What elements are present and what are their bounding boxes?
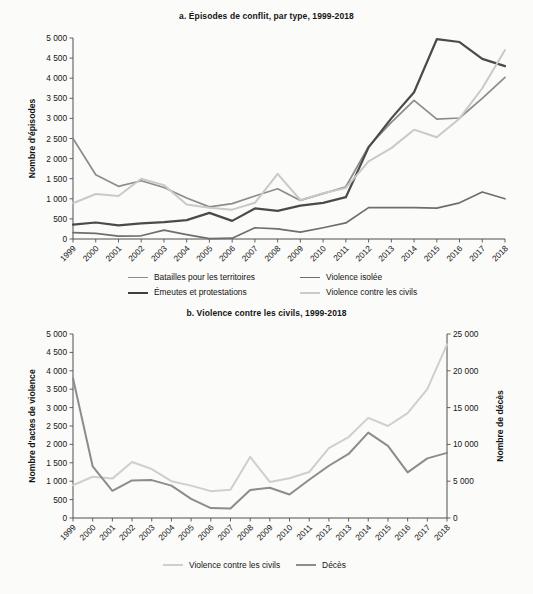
legend-swatch-line-icon — [128, 292, 148, 294]
x-tick-label: 2015 — [422, 243, 442, 263]
x-tick-label: 2012 — [314, 522, 334, 542]
x-tick-label: 2003 — [137, 522, 157, 542]
panel-a-legend: Batailles pour les territoires Violence … — [128, 270, 528, 300]
x-tick-label: 2000 — [77, 522, 97, 542]
legend-row-1: Violence contre les civils Décès — [163, 561, 362, 569]
x-tick-label: 2009 — [255, 522, 275, 542]
legend-swatch-line-icon — [300, 292, 320, 294]
legend-item-violence-civils[interactable]: Violence contre les civils — [163, 561, 280, 569]
y2-tick-label: 0 — [453, 513, 458, 523]
legend-item-batailles[interactable]: Batailles pour les territoires — [128, 273, 300, 281]
x-tick-label: 2011 — [331, 243, 351, 263]
y2-tick-label: 20 000 — [453, 366, 479, 376]
y-tick-label: 3 000 — [46, 113, 67, 123]
y-tick-label: 1 500 — [46, 458, 67, 468]
y-tick-label: 0 — [62, 234, 67, 244]
y-tick-label: 4 500 — [46, 347, 67, 357]
x-tick-label: 2012 — [353, 243, 373, 263]
x-tick-label: 1999 — [58, 243, 78, 263]
legend-label-violence-isolee: Violence isolée — [326, 273, 382, 281]
x-tick-label: 2001 — [97, 522, 117, 542]
y-tick-label: 2 500 — [46, 421, 67, 431]
x-tick-label: 1999 — [58, 522, 78, 542]
chart-panel-b: b. Violence contre les civils, 1999-2018… — [0, 302, 533, 594]
y-tick-label: 2 000 — [46, 439, 67, 449]
y-tick-label: 4 000 — [46, 73, 67, 83]
y-axis-title: Nombre d'épisodes — [27, 99, 37, 179]
x-tick-label: 2001 — [103, 243, 123, 263]
x-tick-label: 2014 — [399, 243, 419, 263]
legend-item-violence-civils[interactable]: Violence contre les civils — [300, 288, 417, 296]
series-line-2 — [73, 39, 505, 225]
legend-row-1: Batailles pour les territoires Violence … — [128, 270, 528, 285]
x-tick-label: 2005 — [194, 243, 214, 263]
legend-label-violence-civils: Violence contre les civils — [189, 561, 280, 569]
series-line-0 — [73, 344, 447, 491]
legend-row-2: Émeutes et protestations Violence contre… — [128, 285, 528, 300]
y-tick-label: 3 500 — [46, 384, 67, 394]
x-tick-label: 2008 — [262, 243, 282, 263]
chart-panel-a: a. Épisodes de conflit, par type, 1999-2… — [0, 0, 533, 308]
x-tick-label: 2000 — [81, 243, 101, 263]
y-tick-label: 4 500 — [46, 53, 67, 63]
x-tick-label: 2009 — [285, 243, 305, 263]
x-tick-label: 2002 — [126, 243, 146, 263]
x-tick-label: 2016 — [444, 243, 464, 263]
y-tick-label: 4 000 — [46, 366, 67, 376]
y-tick-label: 0 — [62, 513, 67, 523]
legend-label-deces: Décès — [322, 561, 346, 569]
y-axis-title: Nombre d'actes de violence — [27, 369, 37, 483]
figure-page: a. Épisodes de conflit, par type, 1999-2… — [0, 0, 533, 594]
y-tick-label: 3 500 — [46, 93, 67, 103]
x-tick-label: 2007 — [240, 243, 260, 263]
y-tick-label: 1 000 — [46, 476, 67, 486]
panel-b-svg: 05001 0001 5002 0002 5003 0003 5004 0004… — [0, 302, 533, 594]
legend-item-emeutes[interactable]: Émeutes et protestations — [128, 288, 300, 296]
legend-label-batailles: Batailles pour les territoires — [154, 273, 255, 281]
x-tick-label: 2017 — [412, 522, 432, 542]
y-tick-label: 2 000 — [46, 154, 67, 164]
x-tick-label: 2003 — [149, 243, 169, 263]
x-tick-label: 2002 — [117, 522, 137, 542]
x-tick-label: 2010 — [274, 522, 294, 542]
legend-swatch-line-icon — [300, 277, 320, 278]
y-tick-label: 5 000 — [46, 329, 67, 339]
x-tick-label: 2013 — [376, 243, 396, 263]
legend-swatch-line-icon — [128, 277, 148, 278]
x-tick-label: 2013 — [333, 522, 353, 542]
y2-tick-label: 25 000 — [453, 329, 479, 339]
x-tick-label: 2004 — [171, 243, 191, 263]
x-tick-label: 2006 — [217, 243, 237, 263]
y-tick-label: 500 — [53, 214, 67, 224]
legend-label-violence-civils: Violence contre les civils — [326, 288, 417, 296]
x-tick-label: 2017 — [467, 243, 487, 263]
legend-swatch-line-icon — [163, 564, 183, 566]
y-tick-label: 1 500 — [46, 174, 67, 184]
x-tick-label: 2007 — [215, 522, 235, 542]
y2-tick-label: 15 000 — [453, 403, 479, 413]
x-tick-label: 2015 — [373, 522, 393, 542]
x-tick-label: 2005 — [176, 522, 196, 542]
y-tick-label: 3 000 — [46, 403, 67, 413]
panel-b-legend: Violence contre les civils Décès — [163, 561, 463, 569]
y-tick-label: 1 000 — [46, 194, 67, 204]
legend-item-deces[interactable]: Décès — [296, 561, 346, 569]
x-tick-label: 2008 — [235, 522, 255, 542]
y-tick-label: 500 — [53, 495, 67, 505]
x-tick-label: 2006 — [196, 522, 216, 542]
series-line-1 — [73, 378, 447, 508]
y2-axis-title: Nombre de décès — [495, 390, 505, 462]
series-line-1 — [73, 192, 505, 239]
legend-swatch-line-icon — [296, 564, 316, 566]
x-tick-label: 2011 — [294, 522, 314, 542]
legend-label-emeutes: Émeutes et protestations — [154, 288, 247, 296]
panel-b-plot: 05001 0001 5002 0002 5003 0003 5004 0004… — [0, 302, 533, 594]
y-tick-label: 5 000 — [46, 33, 67, 43]
y2-tick-label: 10 000 — [453, 439, 479, 449]
x-tick-label: 2016 — [392, 522, 412, 542]
legend-item-violence-isolee[interactable]: Violence isolée — [300, 273, 382, 281]
x-tick-label: 2018 — [490, 243, 510, 263]
x-tick-label: 2004 — [156, 522, 176, 542]
x-tick-label: 2014 — [353, 522, 373, 542]
y2-tick-label: 5 000 — [453, 476, 474, 486]
